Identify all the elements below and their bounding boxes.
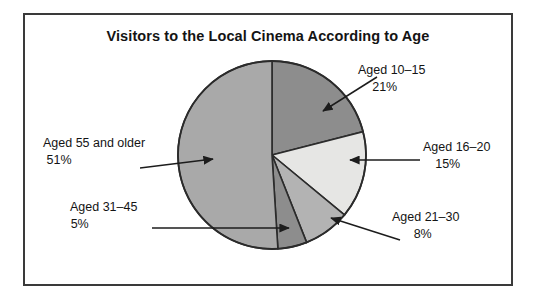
callout-aged-21-30-category: Aged 21–30	[392, 209, 459, 226]
callout-aged-31-45-category: Aged 31–45	[70, 199, 137, 216]
callout-aged-55-and-older: Aged 55 and older 51%	[43, 135, 145, 169]
callout-aged-16-20-category: Aged 16–20	[423, 139, 490, 156]
callout-aged-55-and-older-category: Aged 55 and older	[43, 135, 145, 152]
callout-aged-10-15-category: Aged 10–15	[358, 62, 425, 79]
callout-aged-16-20-percent: 15%	[423, 156, 490, 173]
callout-aged-16-20: Aged 16–20 15%	[423, 139, 490, 173]
callout-aged-55-and-older-percent: 51%	[43, 152, 145, 169]
leader-arrow-aged-21-30	[331, 218, 400, 240]
callout-aged-31-45-percent: 5%	[70, 216, 137, 233]
pie-chart-figure: Visitors to the Local Cinema According t…	[0, 0, 534, 303]
pie-slice-aged-55-and-older[interactable]	[178, 61, 278, 249]
callout-aged-10-15-percent: 21%	[358, 79, 425, 96]
callout-aged-31-45: Aged 31–45 5%	[70, 199, 137, 233]
callout-aged-10-15: Aged 10–15 21%	[358, 62, 425, 96]
callout-aged-21-30: Aged 21–30 8%	[392, 209, 459, 243]
callout-aged-21-30-percent: 8%	[392, 226, 459, 243]
